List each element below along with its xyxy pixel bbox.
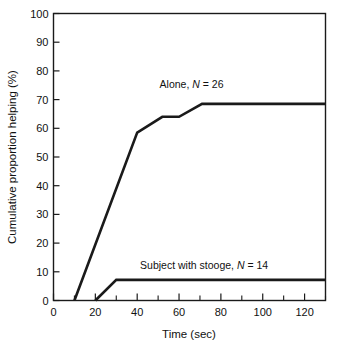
figure-container: 0102030405060708090100 020406080100120 T… (0, 0, 339, 345)
y-tick-label-10: 10 (36, 266, 48, 278)
y-tick-label-60: 60 (36, 122, 48, 134)
plot-area-border (54, 14, 326, 301)
x-tick-label-20: 20 (89, 306, 101, 318)
series-label-0: Alone, N = 26 (160, 78, 224, 90)
plot-frame (54, 14, 326, 301)
y-tick-label-30: 30 (36, 208, 48, 220)
x-tick-label-120: 120 (295, 306, 313, 318)
x-tick-label-100: 100 (254, 306, 272, 318)
y-axis-tick-labels: 0102030405060708090100 (30, 8, 48, 307)
x-tick-label-80: 80 (215, 306, 227, 318)
y-axis-title: Cumulative proportion helping (%) (6, 70, 18, 244)
x-tick-label-60: 60 (173, 306, 185, 318)
y-tick-label-20: 20 (36, 237, 48, 249)
x-tick-label-40: 40 (131, 306, 143, 318)
y-tick-label-40: 40 (36, 180, 48, 192)
x-tick-label-0: 0 (50, 306, 56, 318)
x-axis-title: Time (sec) (162, 328, 216, 340)
y-tick-label-100: 100 (30, 8, 48, 20)
line-chart: 0102030405060708090100 020406080100120 T… (0, 0, 339, 345)
y-tick-label-90: 90 (36, 36, 48, 48)
y-tick-label-80: 80 (36, 65, 48, 77)
y-tick-label-50: 50 (36, 151, 48, 163)
y-tick-label-0: 0 (42, 295, 48, 307)
series-label-1: Subject with stooge, N = 14 (140, 259, 268, 271)
x-axis-tick-labels: 020406080100120 (50, 306, 313, 318)
y-tick-label-70: 70 (36, 94, 48, 106)
